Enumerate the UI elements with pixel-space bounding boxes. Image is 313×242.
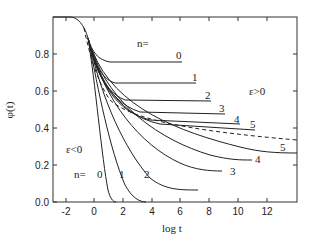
chart: -2 0 2 4 6 8 10 12 0.0 0.2 0.4 0.6 0.8 φ… <box>0 0 313 242</box>
svg-text:3: 3 <box>230 165 236 177</box>
y-axis-title: φ(t) <box>3 101 16 118</box>
eps-positive-n-labels: 0 1 2 3 4 5 <box>176 49 256 130</box>
svg-text:4: 4 <box>149 206 155 217</box>
eps-negative-n-labels: 0 1 2 3 4 5 <box>97 141 286 180</box>
svg-text:2: 2 <box>144 168 150 180</box>
svg-text:5: 5 <box>280 141 286 153</box>
svg-text:12: 12 <box>261 206 273 217</box>
svg-text:0.0: 0.0 <box>35 197 49 208</box>
svg-text:4: 4 <box>234 113 240 125</box>
svg-text:0: 0 <box>91 206 97 217</box>
n-label-top: n= <box>137 37 149 49</box>
svg-text:0.8: 0.8 <box>35 49 49 60</box>
svg-text:1: 1 <box>192 71 198 83</box>
y-axis-ticks <box>53 54 297 202</box>
svg-text:0: 0 <box>176 49 182 61</box>
svg-text:8: 8 <box>206 206 212 217</box>
svg-text:2: 2 <box>205 89 211 101</box>
y-tick-labels: 0.0 0.2 0.4 0.6 0.8 <box>35 49 49 208</box>
series-eps-positive <box>53 17 255 130</box>
svg-text:4: 4 <box>255 153 261 165</box>
x-axis-title: log t <box>162 222 182 234</box>
svg-text:0: 0 <box>97 168 103 180</box>
eps-positive-label: ε>0 <box>249 85 266 97</box>
svg-text:0.4: 0.4 <box>35 123 49 134</box>
svg-text:-2: -2 <box>62 206 71 217</box>
svg-text:10: 10 <box>232 206 244 217</box>
svg-text:0.2: 0.2 <box>35 160 49 171</box>
svg-text:1: 1 <box>119 168 125 180</box>
eps-negative-label: ε<0 <box>66 143 83 155</box>
svg-text:5: 5 <box>250 118 256 130</box>
n-label-bottom: n= <box>74 168 86 180</box>
x-tick-labels: -2 0 2 4 6 8 10 12 <box>62 206 273 217</box>
svg-text:6: 6 <box>177 206 183 217</box>
svg-text:3: 3 <box>219 102 225 114</box>
svg-text:2: 2 <box>120 206 126 217</box>
svg-text:0.6: 0.6 <box>35 86 49 97</box>
